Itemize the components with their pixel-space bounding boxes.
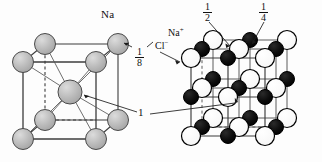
label-cl-minus-charge: − (164, 39, 168, 47)
sphere-na-front-1-0 (184, 90, 199, 105)
label-na: Na (101, 9, 114, 20)
crystal-structure-diagram (0, 0, 322, 162)
sphere-na-front-bottom-right (86, 129, 107, 150)
right-unit-cell-nacl (182, 31, 297, 146)
sphere-na-body-center (58, 80, 82, 104)
sphere-na-back-bottom-left (35, 110, 56, 131)
label-fraction-one-half: 1 2 (203, 2, 212, 23)
sphere-na-front-top-right (86, 52, 107, 73)
sphere-na-back-bottom-right (108, 110, 129, 131)
sphere-na-front-bottom-left (13, 129, 34, 150)
fraction-numerator: 1 (259, 2, 268, 12)
label-na-plus-text: Na (168, 27, 180, 38)
label-one: 1 (138, 107, 144, 118)
sphere-na-front-2-1 (221, 129, 236, 144)
sphere-cl-front-0-2 (256, 49, 275, 68)
label-na-plus-charge: + (180, 26, 184, 34)
label-fraction-one-quarter: 1 4 (259, 2, 268, 23)
sphere-na-front-1-2 (258, 90, 273, 105)
label-na-plus: Na+ (168, 27, 184, 38)
label-cl-minus: Cl− (155, 40, 168, 51)
fraction-numerator: 1 (203, 2, 212, 12)
label-fraction-one-eighth: 1 8 (135, 47, 144, 68)
nacl-ions-front-layer (182, 49, 275, 146)
fraction-denominator: 2 (203, 12, 212, 23)
sphere-na-front-0-1 (221, 51, 236, 66)
fraction-numerator: 1 (135, 47, 144, 57)
sphere-na-front-top-left (13, 52, 34, 73)
fraction-denominator: 8 (135, 57, 144, 68)
sphere-cl-front-2-2 (256, 127, 275, 146)
sphere-cl-front-2-0 (182, 127, 201, 146)
sphere-cl-front-0-0 (182, 49, 201, 68)
sphere-na-back-top-left (35, 34, 56, 55)
fraction-denominator: 4 (259, 12, 268, 23)
